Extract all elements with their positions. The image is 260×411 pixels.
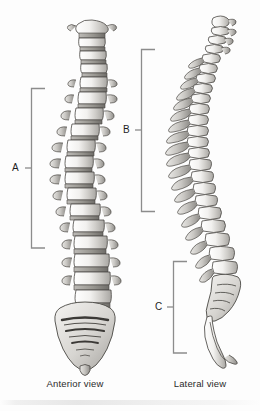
spine-anterior-illustration <box>50 20 121 376</box>
sacrum-anterior <box>55 302 115 376</box>
bracket-b <box>135 50 155 212</box>
thoracic-segment-anterior <box>50 77 117 236</box>
caption-anterior-view: Anterior view <box>0 378 150 389</box>
cervical-segment-lateral <box>205 16 236 54</box>
lumbar-segment-anterior <box>62 236 121 308</box>
bracket-c <box>167 262 187 354</box>
bracket-label-c: C <box>155 301 162 312</box>
caption-lateral-view: Lateral view <box>140 378 260 389</box>
spine-illustration-canvas <box>0 0 260 411</box>
thoracic-segment-lateral <box>166 54 221 215</box>
cervical-segment-anterior <box>67 20 116 77</box>
spine-lateral-illustration <box>166 16 241 368</box>
lumbar-segment-lateral <box>182 207 238 283</box>
bracket-a <box>25 89 45 249</box>
clipped-footer-text <box>0 400 260 405</box>
spine-figure: A B C Anterior view Lateral view <box>0 0 260 411</box>
bracket-label-b: B <box>123 124 130 135</box>
sacrum-lateral <box>204 274 240 368</box>
bracket-label-a: A <box>12 162 19 173</box>
